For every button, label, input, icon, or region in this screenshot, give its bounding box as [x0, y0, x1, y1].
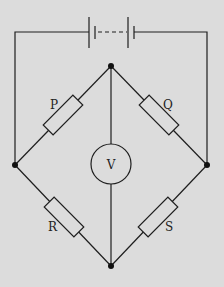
svg-text:V: V — [106, 158, 116, 172]
svg-text:Q: Q — [163, 98, 173, 112]
svg-text:S: S — [165, 220, 173, 234]
resistor-P: P — [43, 95, 83, 135]
wheatstone-bridge: P Q R S V — [0, 0, 224, 287]
voltmeter-icon: V — [91, 144, 131, 184]
resistor-Q: Q — [139, 95, 179, 135]
svg-text:P: P — [50, 98, 58, 112]
svg-text:R: R — [48, 220, 58, 234]
resistor-S: S — [138, 197, 178, 237]
circuit-diagram: P Q R S V — [0, 0, 224, 287]
battery-icon — [89, 17, 134, 48]
resistor-R: R — [44, 197, 84, 237]
